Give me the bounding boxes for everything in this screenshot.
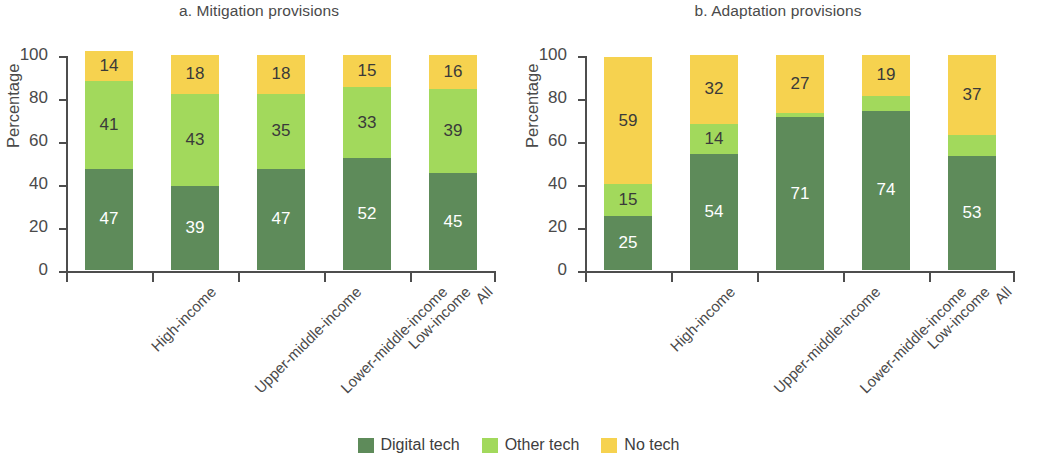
y-axis-tick-label: 20 xyxy=(29,216,48,238)
bar-lower-middle-income[interactable]: 71227 xyxy=(776,55,824,270)
y-axis-tick: 60 xyxy=(59,142,66,144)
bar-segment-other-tech[interactable]: 41 xyxy=(85,81,133,169)
y-axis-tick-label: 0 xyxy=(558,259,567,281)
bar-segment-other-tech[interactable]: 2 xyxy=(776,113,824,117)
bar-segment-other-tech[interactable]: 14 xyxy=(690,124,738,154)
x-axis-tick xyxy=(843,273,845,282)
bar-segment-other-tech[interactable]: 35 xyxy=(257,94,305,169)
bar-segment-other-tech[interactable]: 39 xyxy=(429,89,477,173)
legend-item-no[interactable]: No tech xyxy=(601,436,679,454)
x-axis-tick xyxy=(585,273,587,282)
panel-a-x-category-labels: High-incomeUpper-middle-incomeLower-midd… xyxy=(66,283,496,403)
chart-panels: a. Mitigation provisions Percentage 0204… xyxy=(0,0,1037,425)
bar-segment-no-tech[interactable]: 18 xyxy=(257,55,305,94)
x-category-label: All xyxy=(472,283,496,307)
bar-segment-no-tech[interactable]: 18 xyxy=(171,55,219,94)
bar-low-income[interactable]: 523315 xyxy=(343,55,391,270)
y-axis-tick: 40 xyxy=(59,185,66,187)
bar-high-income[interactable]: 251559 xyxy=(604,55,652,270)
y-axis-tick: 100 xyxy=(59,56,66,58)
x-category-label: All xyxy=(991,283,1015,307)
bar-all[interactable]: 453916 xyxy=(429,55,477,270)
bar-segment-other-tech[interactable]: 7 xyxy=(862,96,910,111)
bar-segment-digital-tech[interactable]: 52 xyxy=(343,158,391,270)
bar-segment-digital-tech[interactable]: 47 xyxy=(85,169,133,270)
x-axis-tick xyxy=(671,273,673,282)
y-axis-tick: 20 xyxy=(578,228,585,230)
bar-segment-digital-tech[interactable]: 39 xyxy=(171,186,219,270)
bar-segment-other-tech[interactable]: 33 xyxy=(343,87,391,158)
bar-segment-digital-tech[interactable]: 53 xyxy=(948,156,996,270)
x-axis-tick xyxy=(238,273,240,282)
y-axis-tick: 0 xyxy=(59,271,66,273)
panel-b-title: b. Adaptation provisions xyxy=(519,2,1037,20)
bar-segment-no-tech[interactable]: 27 xyxy=(776,55,824,113)
bar-lower-middle-income[interactable]: 473518 xyxy=(257,55,305,270)
x-axis-tick xyxy=(152,273,154,282)
y-axis-tick-label: 100 xyxy=(539,44,567,66)
bar-upper-middle-income[interactable]: 394318 xyxy=(171,55,219,270)
bar-segment-no-tech[interactable]: 15 xyxy=(343,55,391,87)
bar-segment-no-tech[interactable]: 37 xyxy=(948,55,996,135)
bar-segment-other-tech[interactable]: 43 xyxy=(171,94,219,186)
legend-label: No tech xyxy=(624,436,679,454)
bar-upper-middle-income[interactable]: 541432 xyxy=(690,55,738,270)
bar-high-income[interactable]: 474114 xyxy=(85,55,133,270)
y-axis-tick-label: 60 xyxy=(548,130,567,152)
x-category-label: High-income xyxy=(667,283,739,355)
y-axis-tick-label: 40 xyxy=(548,173,567,195)
y-axis-tick: 80 xyxy=(578,99,585,101)
chart-legend: Digital techOther techNo tech xyxy=(0,436,1037,454)
legend-item-other[interactable]: Other tech xyxy=(482,436,580,454)
panel-b-x-category-labels: High-incomeUpper-middle-incomeLower-midd… xyxy=(585,283,1015,403)
panel-b-y-axis-line xyxy=(585,56,587,273)
panel-b-plot-area: 0204060801002515595414327122774719531037 xyxy=(585,56,1015,272)
panel-a-title: a. Mitigation provisions xyxy=(0,2,518,20)
legend-item-digital[interactable]: Digital tech xyxy=(358,436,460,454)
y-axis-tick-label: 40 xyxy=(29,173,48,195)
bar-segment-no-tech[interactable]: 32 xyxy=(690,55,738,124)
y-axis-tick-label: 0 xyxy=(39,259,48,281)
panel-b-x-axis-line xyxy=(585,271,1015,273)
y-axis-tick-label: 100 xyxy=(20,44,48,66)
y-axis-tick: 20 xyxy=(59,228,66,230)
panel-b-y-axis-label: Percentage xyxy=(523,64,542,148)
stacked-bar-figure: a. Mitigation provisions Percentage 0204… xyxy=(0,0,1037,464)
bar-segment-no-tech[interactable]: 16 xyxy=(429,55,477,89)
bar-segment-digital-tech[interactable]: 25 xyxy=(604,216,652,270)
bar-segment-digital-tech[interactable]: 45 xyxy=(429,173,477,270)
x-axis-tick xyxy=(757,273,759,282)
y-axis-tick: 60 xyxy=(578,142,585,144)
x-axis-tick xyxy=(410,273,412,282)
chart-panel-adaptation: b. Adaptation provisions Percentage 0204… xyxy=(519,0,1037,425)
bar-segment-no-tech[interactable]: 14 xyxy=(85,51,133,81)
bar-segment-other-tech[interactable]: 15 xyxy=(604,184,652,216)
x-axis-tick xyxy=(1013,273,1015,282)
y-axis-tick: 40 xyxy=(578,185,585,187)
y-axis-tick-label: 20 xyxy=(548,216,567,238)
legend-swatch-icon xyxy=(601,438,617,453)
y-axis-tick: 0 xyxy=(578,271,585,273)
y-axis-tick-label: 80 xyxy=(548,87,567,109)
x-axis-tick xyxy=(494,273,496,282)
chart-panel-mitigation: a. Mitigation provisions Percentage 0204… xyxy=(0,0,518,425)
bar-segment-digital-tech[interactable]: 71 xyxy=(776,117,824,270)
x-axis-tick xyxy=(66,273,68,282)
x-axis-tick xyxy=(929,273,931,282)
bar-all[interactable]: 531037 xyxy=(948,55,996,270)
y-axis-tick: 100 xyxy=(578,56,585,58)
bar-segment-no-tech[interactable]: 19 xyxy=(862,55,910,96)
bar-segment-digital-tech[interactable]: 74 xyxy=(862,111,910,270)
bar-low-income[interactable]: 74719 xyxy=(862,55,910,270)
x-axis-tick xyxy=(324,273,326,282)
bar-segment-other-tech[interactable]: 10 xyxy=(948,135,996,157)
bar-segment-no-tech[interactable]: 59 xyxy=(604,57,652,184)
legend-label: Other tech xyxy=(505,436,580,454)
y-axis-tick-label: 60 xyxy=(29,130,48,152)
panel-a-x-axis-line xyxy=(66,271,496,273)
bar-segment-digital-tech[interactable]: 54 xyxy=(690,154,738,270)
legend-swatch-icon xyxy=(358,438,374,453)
bar-segment-digital-tech[interactable]: 47 xyxy=(257,169,305,270)
legend-swatch-icon xyxy=(482,438,498,453)
legend-label: Digital tech xyxy=(381,436,460,454)
